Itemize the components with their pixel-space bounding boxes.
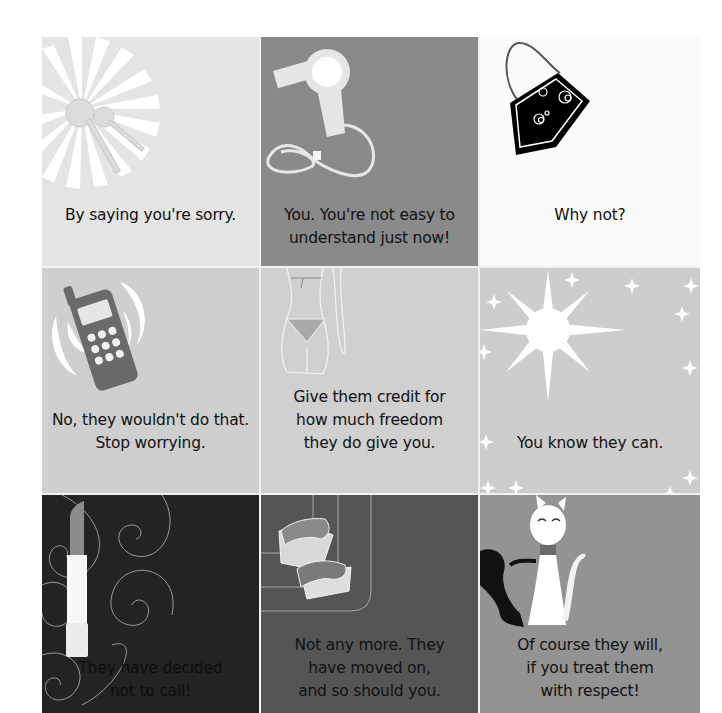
answer-card-lipstick[interactable]: They have decided not to call! [42, 495, 259, 713]
keys-icon [42, 37, 259, 266]
answer-card-keys[interactable]: By saying you're sorry. [42, 37, 259, 266]
answer-card-bikini[interactable]: Give them credit for how much freedom th… [261, 268, 478, 493]
answer-text: You. You're not easy to understand just … [261, 204, 478, 250]
answer-card-sandal[interactable]: Not any more. They have moved on, and so… [261, 495, 478, 713]
answer-card-star[interactable]: You know they can. [480, 268, 700, 493]
mobile-phone-icon [42, 268, 259, 493]
answer-text: Not any more. They have moved on, and so… [261, 634, 478, 703]
answer-text: You know they can. [480, 432, 700, 455]
handbag-icon [480, 37, 700, 266]
answer-card-grid: By saying you're sorry. You. You're not … [42, 37, 700, 713]
answer-card-mobile-phone[interactable]: No, they wouldn't do that. Stop worrying… [42, 268, 259, 493]
answer-card-hair-dryer[interactable]: You. You're not easy to understand just … [261, 37, 478, 266]
answer-text: By saying you're sorry. [42, 204, 259, 227]
star-icon [480, 268, 700, 493]
bikini-icon [261, 268, 478, 493]
answer-text: Give them credit for how much freedom th… [261, 386, 478, 455]
answer-card-handbag[interactable]: Why not? [480, 37, 700, 266]
answer-text: They have decided not to call! [42, 657, 259, 703]
answer-text: Of course they will, if you treat them w… [480, 634, 700, 703]
answer-text: Why not? [480, 204, 700, 227]
answer-card-cat[interactable]: Of course they will, if you treat them w… [480, 495, 700, 713]
answer-text: No, they wouldn't do that. Stop worrying… [42, 409, 259, 455]
